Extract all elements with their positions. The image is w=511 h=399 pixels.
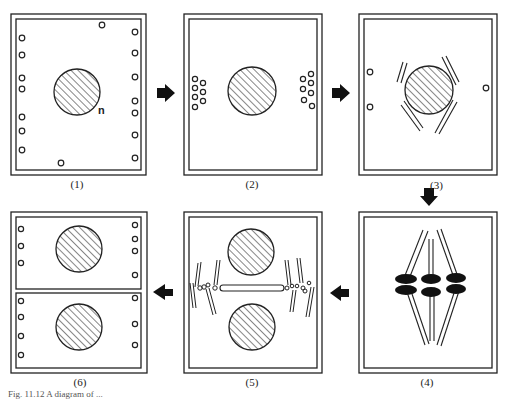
panel-label-3: (3) bbox=[430, 179, 470, 191]
panel-label-2: (2) bbox=[232, 178, 272, 190]
vesicle-cluster-right bbox=[300, 71, 314, 108]
panel-label-1: (1) bbox=[57, 178, 97, 190]
nucleus bbox=[405, 66, 453, 114]
nucleus bbox=[228, 67, 276, 115]
cell-plate bbox=[220, 285, 284, 291]
panel-label-5: (5) bbox=[232, 376, 272, 388]
nucleus-bottom bbox=[229, 304, 275, 350]
vesicle-cluster-left bbox=[192, 76, 205, 109]
arrow-left-icon bbox=[330, 285, 349, 301]
nucleus-top bbox=[228, 229, 274, 275]
panel-2 bbox=[184, 14, 322, 175]
nucleus-label: n bbox=[98, 104, 105, 116]
nucleus-bottom bbox=[56, 304, 102, 350]
nucleus-top bbox=[56, 226, 102, 272]
arrow-left-icon bbox=[153, 284, 173, 300]
panel-5 bbox=[184, 212, 322, 373]
panel-4 bbox=[359, 212, 497, 373]
arrow-right-icon bbox=[157, 84, 175, 102]
panel-3 bbox=[359, 14, 497, 175]
panel-1 bbox=[11, 14, 146, 175]
panel-6 bbox=[11, 212, 147, 373]
chromosomes bbox=[395, 273, 466, 297]
arrow-right-icon bbox=[332, 84, 350, 102]
panel-label-6: (6) bbox=[60, 376, 100, 388]
figure-caption: Fig. 11.12 A diagram of ... bbox=[8, 389, 103, 399]
panel-label-4: (4) bbox=[407, 376, 447, 388]
nucleus bbox=[54, 69, 100, 115]
